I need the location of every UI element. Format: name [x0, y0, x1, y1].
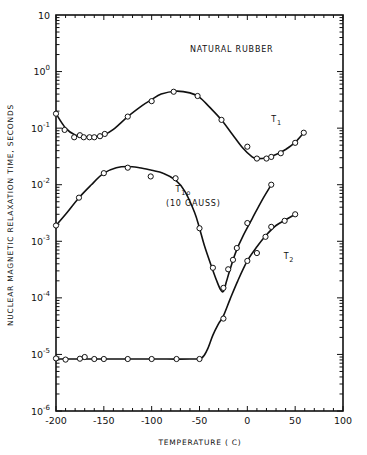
data-point-t2: [269, 224, 274, 229]
data-point-t2: [92, 356, 97, 361]
y-tick-label: 10-2: [31, 177, 50, 190]
data-point-t1: [81, 135, 86, 140]
series-curve-t1: [56, 91, 304, 158]
data-point-t1rho-10-gauss: [226, 267, 231, 272]
data-point-t2: [293, 212, 298, 217]
series-curve-t1rho-10-gauss: [56, 167, 271, 292]
data-point-t1: [125, 114, 130, 119]
data-point-t1rho-10-gauss: [148, 174, 153, 179]
data-point-t2: [245, 258, 250, 263]
annotation-t1: T1: [270, 115, 282, 127]
y-tick-label: 10: [38, 10, 50, 21]
x-tick-label: -150: [93, 415, 115, 426]
data-point-t2: [63, 357, 68, 362]
data-point-t1: [72, 135, 77, 140]
data-point-t1: [245, 144, 250, 149]
x-tick-label: 50: [289, 415, 301, 426]
data-point-t1rho-10-gauss: [53, 223, 58, 228]
data-point-t1rho-10-gauss: [101, 171, 106, 176]
labels: TEMPERATURE ( C) NUCLEAR MAGNETIC RELAXA…: [6, 104, 242, 447]
data-point-t1rho-10-gauss: [197, 226, 202, 231]
y-tick-label: 100: [33, 64, 50, 77]
data-point-t1: [149, 99, 154, 104]
x-tick-label: -100: [141, 415, 163, 426]
x-tick-label: 100: [334, 415, 352, 426]
annotation-t1rho: T1ρ: [175, 185, 192, 197]
data-point-t1rho-10-gauss: [269, 182, 274, 187]
data-point-t1: [171, 89, 176, 94]
data-point-t1: [254, 156, 259, 161]
data-point-t1: [278, 151, 283, 156]
data-point-t2: [53, 356, 58, 361]
data-point-t1: [53, 111, 58, 116]
data-point-t2: [101, 356, 106, 361]
data-point-t1: [219, 117, 224, 122]
data-point-t2: [254, 250, 259, 255]
x-tick-label: -200: [45, 415, 67, 426]
data-point-t1rho-10-gauss: [221, 285, 226, 290]
data-point-t1: [62, 127, 67, 132]
data-point-t1rho-10-gauss: [125, 165, 130, 170]
data-point-t1rho-10-gauss: [173, 176, 178, 181]
axes: -200-150-100-500501001010010-110-210-310…: [31, 10, 352, 427]
y-tick-label: 10-4: [31, 290, 51, 303]
y-axis-title: NUCLEAR MAGNETIC RELAXATION TIME, SECOND…: [6, 104, 15, 326]
y-tick-label: 10-5: [31, 347, 50, 360]
data-point-t2: [263, 234, 268, 239]
plot-frame: [56, 15, 343, 411]
series-curve-t2: [56, 214, 295, 359]
data-point-t2: [149, 356, 154, 361]
data-point-t2: [221, 316, 226, 321]
y-tick-label: 10-3: [31, 234, 50, 247]
data-point-t1: [269, 154, 274, 159]
data-point-t2: [197, 356, 202, 361]
data-points: [53, 89, 306, 362]
data-point-t1: [102, 131, 107, 136]
data-point-t2: [282, 218, 287, 223]
annotation-title: NATURAL RUBBER: [190, 45, 274, 54]
y-tick-label: 10-1: [31, 121, 50, 134]
x-tick-label: -50: [192, 415, 208, 426]
data-point-t1rho-10-gauss: [210, 265, 215, 270]
data-point-t1rho-10-gauss: [245, 220, 250, 225]
data-point-t2: [125, 356, 130, 361]
data-point-t2: [82, 354, 87, 359]
data-point-t1rho-10-gauss: [234, 245, 239, 250]
data-point-t1: [293, 140, 298, 145]
x-axis-title: TEMPERATURE ( C): [157, 438, 241, 447]
relaxation-time-chart: -200-150-100-500501001010010-110-210-310…: [0, 0, 367, 455]
annotation-t1rho: (10 GAUSS): [166, 199, 221, 208]
data-point-t1rho-10-gauss: [76, 195, 81, 200]
annotation-t2: T2: [283, 252, 295, 264]
x-tick-label: 0: [244, 415, 250, 426]
data-point-t1: [301, 130, 306, 135]
data-point-t2: [174, 356, 179, 361]
data-point-t1: [195, 93, 200, 98]
curves: [56, 91, 304, 359]
data-point-t1rho-10-gauss: [230, 257, 235, 262]
data-point-t1: [92, 135, 97, 140]
